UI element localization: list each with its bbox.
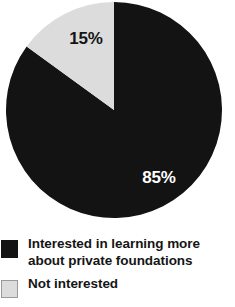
legend-label-not-interested-line1: Not interested [28, 276, 230, 293]
legend-label-interested-line2: about private foundations [28, 253, 230, 270]
pie-chart-figure: 15% 85% Interested in learning more abou… [0, 0, 235, 307]
legend-swatch-icon-interested [1, 240, 18, 258]
legend-label-interested: Interested in learning more about privat… [28, 236, 230, 269]
pie-chart-svg [0, 0, 235, 228]
legend-label-interested-line1: Interested in learning more [28, 236, 230, 253]
legend-label-not-interested: Not interested [28, 276, 230, 293]
pie-chart-area: 15% 85% [0, 0, 235, 228]
pie-slice-minor-value-label: 15% [69, 30, 102, 47]
pie-slice-major-value-label: 85% [142, 169, 175, 186]
legend-swatch-icon-not-interested [1, 280, 18, 298]
